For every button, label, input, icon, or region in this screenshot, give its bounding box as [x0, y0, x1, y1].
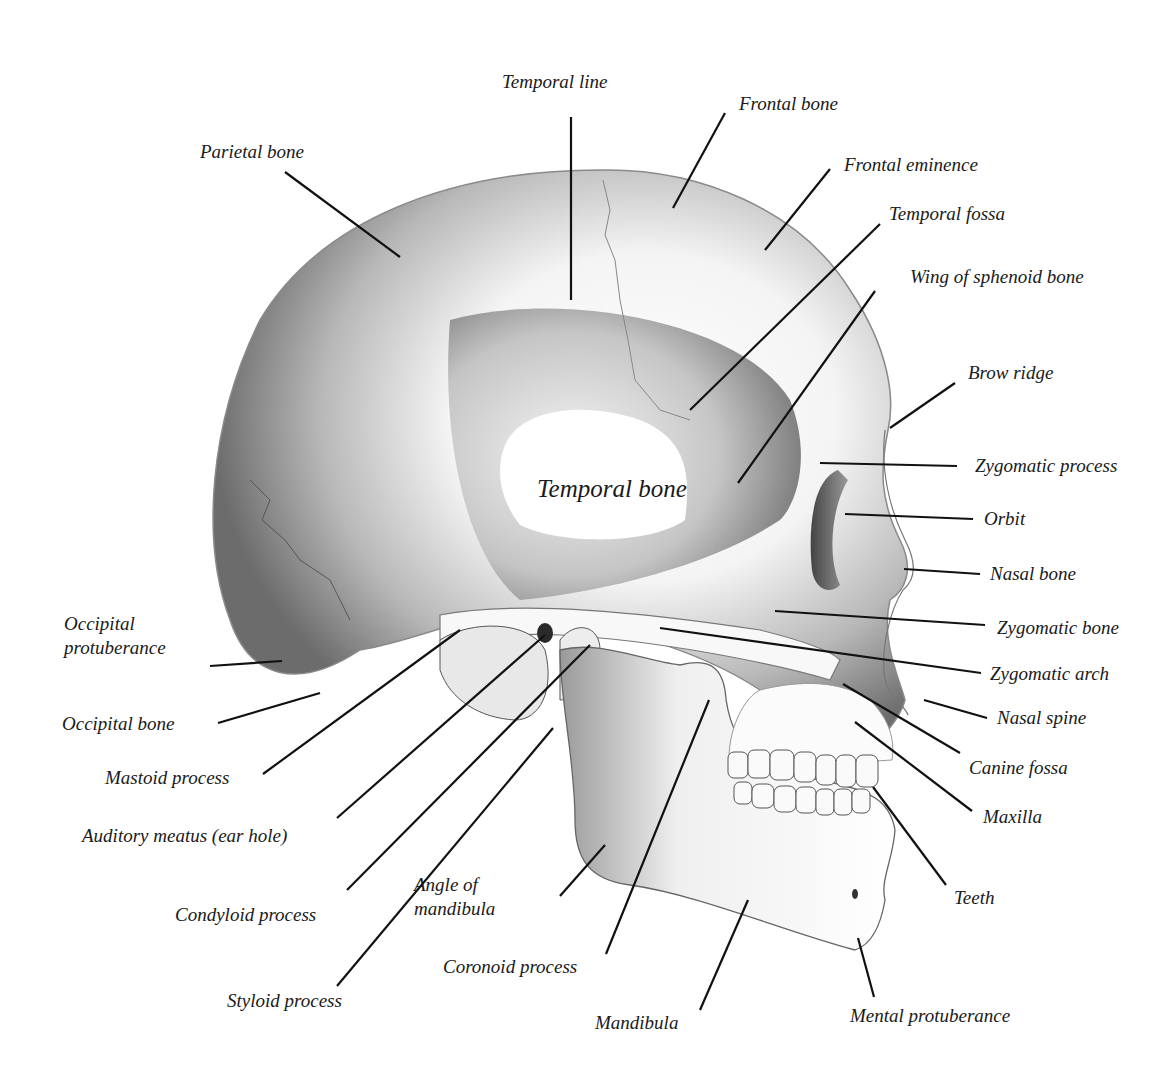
label-temporal-line: Temporal line: [502, 71, 607, 93]
label-auditory-meatus: Auditory meatus (ear hole): [82, 825, 287, 847]
label-mental-protuberance: Mental protuberance: [850, 1005, 1010, 1027]
label-teeth: Teeth: [954, 887, 994, 909]
mastoid-shape: [440, 626, 548, 720]
leader-line-brow-ridge: [890, 383, 955, 428]
label-brow-ridge: Brow ridge: [968, 362, 1053, 384]
label-wing-of-sphenoid-bone: Wing of sphenoid bone: [910, 266, 1084, 288]
label-styloid-process: Styloid process: [227, 990, 342, 1012]
label-mastoid-process: Mastoid process: [105, 767, 229, 789]
label-temporal-fossa: Temporal fossa: [889, 203, 1005, 225]
label-orbit: Orbit: [984, 508, 1025, 530]
label-occipital-protuberance: Occipital protuberance: [64, 612, 166, 660]
label-zygomatic-arch: Zygomatic arch: [990, 663, 1109, 685]
skull-anatomy-diagram: Temporal bone Temporal lineFrontal boneP…: [0, 0, 1176, 1085]
label-maxilla: Maxilla: [983, 806, 1042, 828]
label-condyloid-process: Condyloid process: [175, 904, 316, 926]
label-frontal-bone: Frontal bone: [739, 93, 838, 115]
label-canine-fossa: Canine fossa: [969, 757, 1068, 779]
leader-line-nasal-bone: [904, 569, 980, 574]
label-coronoid-process: Coronoid process: [443, 956, 577, 978]
label-angle-of-mandibula: Angle of mandibula: [414, 873, 495, 921]
label-occipital-bone: Occipital bone: [62, 713, 174, 735]
leader-line-occipital-bone: [218, 693, 320, 723]
label-zygomatic-bone: Zygomatic bone: [997, 617, 1119, 639]
leader-line-mandibula: [700, 900, 748, 1010]
label-temporal-bone: Temporal bone: [537, 478, 687, 500]
leader-line-nasal-spine: [924, 700, 987, 718]
label-parietal-bone: Parietal bone: [200, 141, 304, 163]
label-mandibula: Mandibula: [595, 1012, 678, 1034]
leader-line-mental-protuberance: [858, 938, 874, 997]
label-nasal-spine: Nasal spine: [997, 707, 1086, 729]
mental-foramen-shape: [852, 889, 858, 899]
label-frontal-eminence: Frontal eminence: [844, 154, 978, 176]
label-nasal-bone: Nasal bone: [990, 563, 1076, 585]
leader-line-styloid-process: [337, 728, 553, 986]
label-zygomatic-process: Zygomatic process: [975, 455, 1117, 477]
